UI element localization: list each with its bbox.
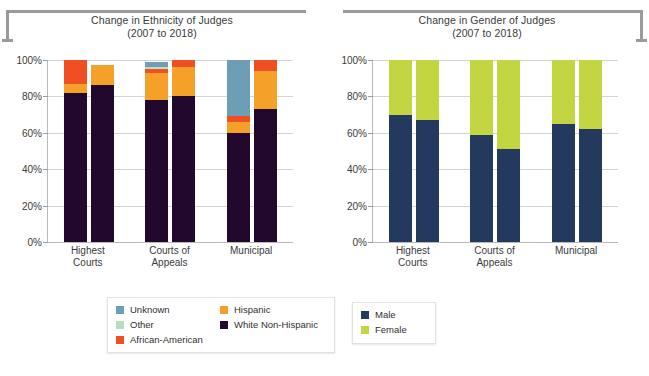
category-label-line1: Courts of: [149, 245, 190, 256]
gender-title-subtitle: (2007 to 2018): [325, 27, 649, 40]
ethnicity-bar[interactable]: [227, 60, 250, 242]
ethnicity-bar[interactable]: [254, 60, 277, 242]
gender-bar-segment: [470, 135, 493, 242]
legend-item-label: White Non-Hispanic: [234, 319, 318, 330]
gender-bar-segment: [497, 60, 520, 149]
gender-legend-column: MaleFemale: [361, 309, 407, 337]
gender-y-tick-mark: [368, 242, 373, 243]
gender-legend: MaleFemale: [352, 302, 436, 344]
category-label-line1: Highest: [71, 245, 105, 256]
legend-swatch-icon: [220, 321, 228, 329]
ethnicity-title-subtitle: (2007 to 2018): [0, 27, 324, 40]
gender-chart-title: Change in Gender of Judges (2007 to 2018…: [325, 14, 649, 40]
ethnicity-bar-segment: [172, 67, 195, 96]
gender-bar-segment: [416, 60, 439, 120]
legend-swatch-icon: [361, 311, 369, 319]
ethnicity-category-label: HighestCourts: [48, 245, 128, 269]
gender-bar[interactable]: [416, 60, 439, 242]
ethnicity-y-tick-mark: [43, 242, 48, 243]
gender-bar-group: [552, 60, 602, 242]
ethnicity-plot-area: 100%80%60%40%20%0%: [47, 60, 293, 243]
ethnicity-legend-item[interactable]: Hispanic: [220, 304, 318, 315]
gender-y-tick-label: 20%: [347, 200, 367, 211]
gender-category-label: HighestCourts: [373, 245, 453, 269]
gender-bar-segment: [579, 129, 602, 242]
gender-legend-item[interactable]: Female: [361, 324, 407, 335]
legend-item-label: Female: [375, 324, 407, 335]
gender-bar-segment: [389, 115, 412, 242]
gender-title-main: Change in Gender of Judges: [419, 14, 556, 26]
ethnicity-bar[interactable]: [145, 60, 168, 242]
ethnicity-bar-segment: [172, 60, 195, 67]
ethnicity-bar-segment: [91, 85, 114, 242]
ethnicity-bar-group: [145, 60, 195, 242]
category-label-line2: Appeals: [454, 257, 534, 269]
ethnicity-legend: UnknownOtherAfrican-AmericanHispanicWhit…: [107, 297, 335, 353]
gender-bar-group: [389, 60, 439, 242]
category-label-line2: Courts: [373, 257, 453, 269]
legend-item-label: African-American: [130, 334, 203, 345]
category-label-line2: Appeals: [129, 257, 209, 269]
category-label-line1: Municipal: [230, 245, 272, 256]
legend-item-label: Unknown: [130, 304, 170, 315]
ethnicity-category-label: Courts ofAppeals: [129, 245, 209, 269]
ethnicity-bar-segment: [254, 71, 277, 109]
gender-chart-panel: Change in Gender of Judges (2007 to 2018…: [325, 0, 649, 290]
category-label-line2: Courts: [48, 257, 128, 269]
ethnicity-y-tick-label: 0%: [28, 237, 42, 248]
category-label-line1: Municipal: [555, 245, 597, 256]
ethnicity-bar-segment: [64, 93, 87, 242]
ethnicity-title-main: Change in Ethnicity of Judges: [91, 14, 233, 26]
gender-legend-item[interactable]: Male: [361, 309, 407, 320]
ethnicity-legend-item[interactable]: Unknown: [116, 304, 220, 315]
gender-bar-segment: [470, 60, 493, 135]
gender-bar-segment: [552, 60, 575, 124]
gender-bar[interactable]: [579, 60, 602, 242]
legend-swatch-icon: [361, 326, 369, 334]
legend-item-label: Other: [130, 319, 154, 330]
ethnicity-bar-segment: [227, 122, 250, 133]
ethnicity-bar[interactable]: [64, 60, 87, 242]
gender-category-labels: HighestCourtsCourts ofAppealsMunicipal: [372, 245, 617, 269]
ethnicity-legend-item[interactable]: White Non-Hispanic: [220, 319, 318, 330]
ethnicity-bar-segment: [254, 109, 277, 242]
ethnicity-y-tick-label: 100%: [16, 55, 42, 66]
ethnicity-y-tick-label: 60%: [22, 127, 42, 138]
ethnicity-bar-segment: [227, 133, 250, 242]
gender-y-tick-label: 80%: [347, 91, 367, 102]
gender-y-tick-label: 0%: [353, 237, 367, 248]
ethnicity-category-labels: HighestCourtsCourts ofAppealsMunicipal: [47, 245, 292, 269]
ethnicity-bar[interactable]: [91, 60, 114, 242]
legend-swatch-icon: [220, 306, 228, 314]
gender-y-tick-label: 40%: [347, 164, 367, 175]
ethnicity-legend-item[interactable]: Other: [116, 319, 220, 330]
gender-bar-groups: [373, 60, 618, 242]
ethnicity-bar[interactable]: [172, 60, 195, 242]
gender-bar[interactable]: [497, 60, 520, 242]
gender-y-tick-label: 60%: [347, 127, 367, 138]
gender-category-label: Municipal: [536, 245, 616, 269]
gender-bar-segment: [579, 60, 602, 129]
ethnicity-bar-group: [64, 60, 114, 242]
gender-category-label: Courts ofAppeals: [454, 245, 534, 269]
category-label-line1: Highest: [396, 245, 430, 256]
ethnicity-y-tick-label: 80%: [22, 91, 42, 102]
ethnicity-legend-item[interactable]: African-American: [116, 334, 220, 345]
ethnicity-y-tick-label: 40%: [22, 164, 42, 175]
ethnicity-bar-segment: [172, 96, 195, 242]
ethnicity-bar-segment: [64, 84, 87, 93]
ethnicity-y-tick-label: 20%: [22, 200, 42, 211]
gender-legend-columns: MaleFemale: [361, 309, 427, 337]
ethnicity-legend-column: UnknownOtherAfrican-American: [116, 304, 220, 346]
gender-plot-area: 100%80%60%40%20%0%: [372, 60, 618, 243]
gender-bar-segment: [552, 124, 575, 242]
gender-bar[interactable]: [552, 60, 575, 242]
ethnicity-bar-segment: [145, 73, 168, 100]
legend-swatch-icon: [116, 336, 124, 344]
gender-bar[interactable]: [389, 60, 412, 242]
legend-item-label: Male: [375, 309, 396, 320]
gender-bar[interactable]: [470, 60, 493, 242]
ethnicity-chart-panel: Change in Ethnicity of Judges (2007 to 2…: [0, 0, 324, 290]
ethnicity-bar-segment: [64, 60, 87, 84]
ethnicity-bar-group: [227, 60, 277, 242]
